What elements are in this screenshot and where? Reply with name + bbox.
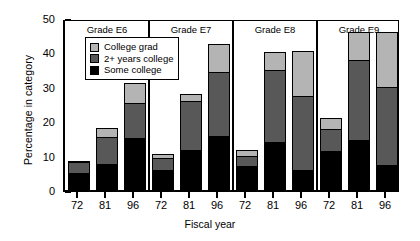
bar-segment <box>377 33 397 87</box>
bar-segment <box>181 101 201 150</box>
bar-segment <box>293 170 313 189</box>
bar-segment <box>237 166 257 189</box>
legend-label: College grad <box>104 42 158 52</box>
legend-swatch-icon <box>90 54 99 63</box>
bar-segment <box>293 96 313 171</box>
bar-segment <box>209 45 229 72</box>
bar-segment <box>97 164 117 189</box>
bar-segment <box>377 87 397 165</box>
bar-stack <box>152 154 174 190</box>
bar-stack <box>376 32 398 190</box>
bar-segment <box>321 119 341 129</box>
bar-segment <box>125 84 145 103</box>
x-tick-label: 72 <box>232 199 258 211</box>
y-tick-label: 30 <box>33 83 55 94</box>
x-axis-title: Fiscal year <box>0 218 420 230</box>
group-title: Grade E7 <box>149 24 233 35</box>
bar-segment <box>349 33 369 60</box>
x-tick-mark <box>384 192 386 198</box>
x-tick-label: 96 <box>204 199 230 211</box>
bar-segment <box>377 165 397 189</box>
bar-segment <box>265 70 285 141</box>
bar-stack <box>180 94 202 190</box>
bar-segment <box>321 151 341 189</box>
y-tick-label: 20 <box>33 117 55 128</box>
x-tick-mark <box>328 192 330 198</box>
x-tick-label: 81 <box>344 199 370 211</box>
bar-segment <box>265 53 285 70</box>
legend-swatch-icon <box>90 66 99 75</box>
bar-stack <box>124 83 146 190</box>
bar-segment <box>209 72 229 136</box>
stacked-bar-chart: Percentage in category 01020304050 Grade… <box>0 0 420 241</box>
bar-stack <box>236 150 258 190</box>
x-tick-label: 96 <box>288 199 314 211</box>
bar-segment <box>181 150 201 189</box>
x-tick-label: 81 <box>260 199 286 211</box>
x-tick-mark <box>104 192 106 198</box>
legend-item: College grad <box>90 42 173 53</box>
x-tick-mark <box>300 192 302 198</box>
bar-segment <box>125 138 145 189</box>
panel-divider <box>316 21 319 190</box>
bar-stack <box>264 52 286 190</box>
x-tick-label: 72 <box>316 199 342 211</box>
bar-stack <box>208 44 230 190</box>
x-tick-mark <box>160 192 162 198</box>
bar-stack <box>68 161 90 190</box>
y-tick-label: 40 <box>33 48 55 59</box>
y-axis-title: Percentage in category <box>22 20 34 200</box>
x-tick-mark <box>244 192 246 198</box>
legend-swatch-icon <box>90 43 99 52</box>
x-tick-label: 96 <box>372 199 398 211</box>
legend-item: 2+ years college <box>90 53 173 64</box>
bar-segment <box>69 173 89 189</box>
bar-segment <box>293 52 313 96</box>
legend-item: Some college <box>90 65 173 76</box>
y-tick-label: 10 <box>33 152 55 163</box>
x-tick-label: 72 <box>148 199 174 211</box>
y-tick-label: 50 <box>33 14 55 25</box>
panel-divider <box>232 21 235 190</box>
group-title: Grade E6 <box>65 24 149 35</box>
bar-segment <box>97 129 117 137</box>
x-tick-mark <box>272 192 274 198</box>
bar-stack <box>320 118 342 190</box>
x-tick-label: 81 <box>92 199 118 211</box>
chart-legend: College grad2+ years collegeSome college <box>85 37 179 80</box>
bar-segment <box>153 170 173 189</box>
bar-segment <box>97 137 117 164</box>
x-tick-mark <box>188 192 190 198</box>
bar-segment <box>181 95 201 102</box>
x-tick-label: 96 <box>120 199 146 211</box>
x-tick-label: 72 <box>64 199 90 211</box>
bar-segment <box>349 140 369 189</box>
x-tick-mark <box>356 192 358 198</box>
bar-segment <box>265 142 285 189</box>
x-tick-label: 81 <box>176 199 202 211</box>
legend-label: Some college <box>104 65 162 75</box>
bar-segment <box>321 129 341 151</box>
x-tick-mark <box>132 192 134 198</box>
bar-segment <box>69 162 89 173</box>
bar-stack <box>292 51 314 190</box>
x-tick-mark <box>76 192 78 198</box>
bar-segment <box>209 136 229 189</box>
bar-segment <box>153 158 173 169</box>
bar-segment <box>125 103 145 138</box>
legend-label: 2+ years college <box>104 54 173 64</box>
bar-segment <box>237 156 257 166</box>
y-tick-label: 0 <box>33 186 55 197</box>
bar-segment <box>349 60 369 140</box>
bar-stack <box>348 32 370 190</box>
group-title: Grade E8 <box>233 24 317 35</box>
bar-stack <box>96 128 118 190</box>
x-tick-mark <box>216 192 218 198</box>
